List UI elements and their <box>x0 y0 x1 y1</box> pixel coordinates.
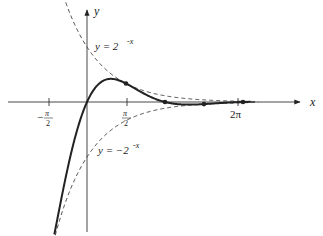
svg-text:π: π <box>45 109 50 118</box>
lower-envelope-curve <box>55 102 258 235</box>
svg-text:y = −2: y = −2 <box>97 144 129 156</box>
svg-text:2: 2 <box>46 119 50 128</box>
plot-canvas: x y − π 2 π 2 2π y = 2 -x y = −2 -x <box>0 0 323 236</box>
tick-label-neg-pi-half: − π 2 <box>37 109 53 128</box>
x-axis-label: x <box>309 95 316 109</box>
svg-text:y = 2: y = 2 <box>94 40 119 52</box>
svg-text:π: π <box>123 109 128 118</box>
upper-envelope-label: y = 2 -x <box>94 37 134 52</box>
marked-point <box>124 81 129 86</box>
svg-text:−: − <box>37 111 43 123</box>
svg-text:-x: -x <box>127 37 134 46</box>
lower-envelope-label: y = −2 -x <box>97 141 140 156</box>
svg-text:2: 2 <box>124 119 128 128</box>
y-axis-label: y <box>93 4 100 18</box>
marked-point <box>163 100 168 105</box>
marked-point <box>202 102 207 107</box>
tick-label-2pi: 2π <box>230 108 242 120</box>
marked-point <box>241 100 246 105</box>
svg-text:-x: -x <box>133 141 140 150</box>
figure: x y − π 2 π 2 2π y = 2 -x y = −2 -x <box>0 0 323 236</box>
